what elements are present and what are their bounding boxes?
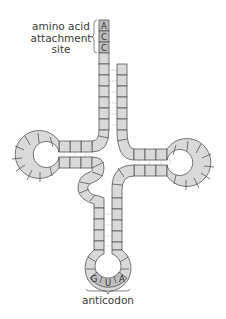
t-loop <box>167 139 214 191</box>
d-loop <box>12 131 59 183</box>
base-a: A <box>101 21 107 31</box>
acceptor-pairing-lines <box>109 70 117 125</box>
base-u: U <box>105 278 111 288</box>
corner-right-top <box>117 130 134 160</box>
corner-left-top <box>92 130 109 152</box>
base-g: G <box>91 274 98 284</box>
corner-right-bottom <box>112 165 134 198</box>
amino-acid-attachment-label: amino acid attachment site <box>30 21 92 56</box>
label-line-3: site <box>30 44 92 56</box>
acc-bases: A C C <box>101 21 107 53</box>
label-line-1: amino acid <box>30 21 92 33</box>
base-c1: C <box>101 32 107 42</box>
base-a: A <box>119 274 125 284</box>
d-arm-stem <box>59 141 92 168</box>
anticodon-label: anticodon <box>78 295 138 307</box>
t-arm-stem <box>134 149 170 176</box>
acceptor-stem-right-strand <box>117 64 127 130</box>
base-c2: C <box>101 43 107 53</box>
